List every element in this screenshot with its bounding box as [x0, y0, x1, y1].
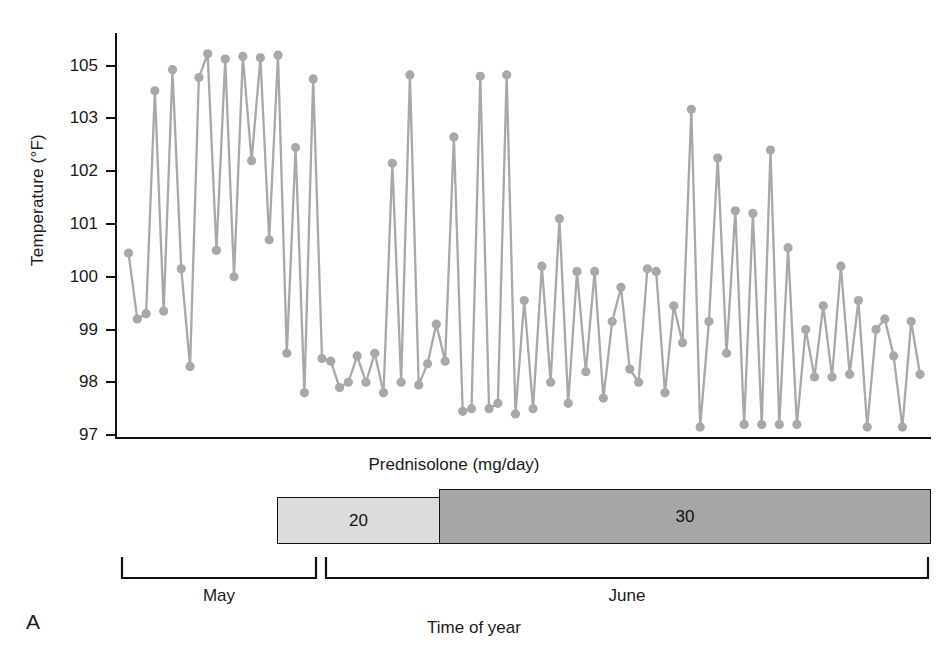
data-point-marker — [599, 393, 608, 402]
prednisolone-title: Prednisolone (mg/day) — [368, 455, 539, 475]
y-axis-tick-label: 100 — [52, 268, 98, 285]
data-point-marker — [713, 153, 722, 162]
data-point-marker — [441, 357, 450, 366]
data-point-marker — [783, 243, 792, 252]
y-axis-tick-label: 102 — [52, 162, 98, 179]
data-point-marker — [907, 317, 916, 326]
data-point-marker — [564, 399, 573, 408]
data-point-marker — [414, 380, 423, 389]
data-point-marker — [722, 349, 731, 358]
data-point-marker — [370, 349, 379, 358]
data-point-marker — [608, 317, 617, 326]
data-point-marker — [643, 264, 652, 273]
month-label-june: June — [609, 586, 646, 606]
y-axis-tick-label: 98 — [52, 373, 98, 390]
data-point-marker — [141, 309, 150, 318]
data-point-marker — [221, 55, 230, 64]
y-axis-title: Temperature (°F) — [28, 100, 48, 300]
y-axis-tick — [106, 65, 115, 67]
y-axis-tick-label: 105 — [52, 57, 98, 74]
y-axis-tick-label: 101 — [52, 215, 98, 232]
dose-bar-label-20: 20 — [349, 512, 368, 529]
data-point-marker — [915, 370, 924, 379]
data-point-marker — [397, 378, 406, 387]
data-point-marker — [528, 404, 537, 413]
data-point-marker — [678, 338, 687, 347]
data-point-marker — [185, 362, 194, 371]
data-point-marker — [344, 378, 353, 387]
data-point-marker — [704, 317, 713, 326]
data-point-marker — [669, 301, 678, 310]
data-point-marker — [502, 70, 511, 79]
data-point-marker — [458, 407, 467, 416]
data-point-marker — [212, 246, 221, 255]
data-point-marker — [572, 267, 581, 276]
data-point-marker — [581, 367, 590, 376]
data-point-marker — [476, 72, 485, 81]
data-point-marker — [256, 53, 265, 62]
data-point-marker — [845, 370, 854, 379]
data-point-marker — [168, 65, 177, 74]
data-point-marker — [537, 262, 546, 271]
data-point-marker — [801, 325, 810, 334]
month-brackets — [0, 0, 943, 660]
temperature-line-plot — [0, 0, 943, 660]
data-point-marker — [740, 420, 749, 429]
data-point-marker — [379, 388, 388, 397]
figure-panel-a: Temperature (°F) 105103102101100999897 P… — [0, 0, 943, 660]
y-axis-line — [115, 33, 117, 439]
y-axis-tick — [106, 170, 115, 172]
data-point-marker — [335, 383, 344, 392]
x-axis-line — [115, 437, 931, 439]
data-point-marker — [300, 388, 309, 397]
data-point-marker — [484, 404, 493, 413]
data-point-marker — [238, 52, 247, 61]
data-point-marker — [467, 404, 476, 413]
data-point-marker — [625, 364, 634, 373]
data-point-marker — [546, 378, 555, 387]
data-point-marker — [493, 399, 502, 408]
y-axis-tick — [106, 381, 115, 383]
data-point-marker — [449, 132, 458, 141]
data-point-marker — [133, 314, 142, 323]
data-point-marker — [247, 156, 256, 165]
month-label-may: May — [203, 586, 235, 606]
data-point-marker — [124, 248, 133, 257]
data-point-marker — [273, 51, 282, 60]
temperature-line — [129, 54, 921, 427]
data-point-marker — [432, 320, 441, 329]
data-point-marker — [291, 143, 300, 152]
data-point-marker — [590, 267, 599, 276]
data-point-marker — [361, 378, 370, 387]
y-axis-tick — [106, 117, 115, 119]
data-point-marker — [634, 378, 643, 387]
data-point-marker — [696, 423, 705, 432]
data-point-marker — [309, 74, 318, 83]
data-point-marker — [229, 272, 238, 281]
y-axis-tick — [106, 434, 115, 436]
data-point-marker — [660, 388, 669, 397]
y-axis-tick — [106, 223, 115, 225]
data-point-marker — [177, 264, 186, 273]
data-point-marker — [388, 159, 397, 168]
data-point-marker — [836, 262, 845, 271]
data-point-marker — [150, 86, 159, 95]
data-point-marker — [810, 372, 819, 381]
data-point-marker — [898, 423, 907, 432]
data-point-marker — [520, 296, 529, 305]
y-axis-tick — [106, 276, 115, 278]
data-point-marker — [203, 49, 212, 58]
data-point-marker — [819, 301, 828, 310]
data-point-marker — [748, 209, 757, 218]
data-point-marker — [757, 420, 766, 429]
data-point-marker — [353, 351, 362, 360]
data-point-marker — [555, 214, 564, 223]
data-point-marker — [792, 420, 801, 429]
data-point-marker — [766, 146, 775, 155]
data-point-marker — [889, 351, 898, 360]
data-point-marker — [326, 357, 335, 366]
data-point-marker — [282, 349, 291, 358]
dose-bar-label-30: 30 — [676, 508, 695, 525]
data-point-marker — [731, 206, 740, 215]
data-point-marker — [159, 306, 168, 315]
